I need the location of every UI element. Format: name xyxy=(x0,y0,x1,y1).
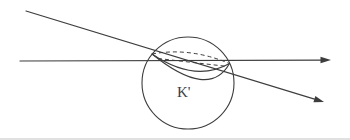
oblique-ray-arrowhead-icon xyxy=(313,96,324,102)
figure-svg: K' xyxy=(0,0,350,140)
sphere-label: K' xyxy=(177,84,191,100)
cap-bottom-arc xyxy=(152,54,230,80)
diagram-canvas: K' xyxy=(0,0,350,140)
horizontal-ray-arrowhead-icon xyxy=(321,57,332,63)
oblique-ray-line xyxy=(26,11,315,99)
horizontal-ray-line xyxy=(20,60,322,61)
